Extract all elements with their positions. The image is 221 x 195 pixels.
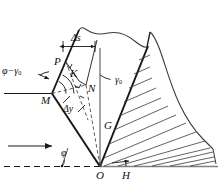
point-label-O: O (96, 170, 104, 181)
dimension-label-delta-s: Δs (71, 33, 81, 43)
angle-label-phi: φ (61, 148, 67, 158)
point-label-H: H (122, 170, 130, 181)
mountain-left-flank (147, 32, 150, 47)
point-label-N: N (88, 83, 95, 94)
phi-gamma-leader (38, 74, 49, 79)
point-label-M: M (41, 95, 50, 106)
diagram-canvas (0, 0, 221, 195)
terrain-profile (79, 28, 213, 149)
bedrock-hatching (104, 55, 215, 166)
wedge-lower-left-edge (52, 94, 100, 167)
point-label-P: P (54, 56, 61, 67)
dimension-label-delta-y: Δy (63, 104, 73, 114)
angle-label-phi-minus-gamma-zero: φ−γ0 (2, 66, 21, 76)
point-label-K: K (70, 68, 77, 79)
point-label-G: G (104, 120, 112, 131)
mountain-right-base (213, 149, 216, 164)
slope-wedge-diagram: φ−γ0 P Δs K N M Δy γ0 G φ O H (0, 0, 221, 195)
angle-label-gamma-zero: γ0 (115, 75, 122, 85)
